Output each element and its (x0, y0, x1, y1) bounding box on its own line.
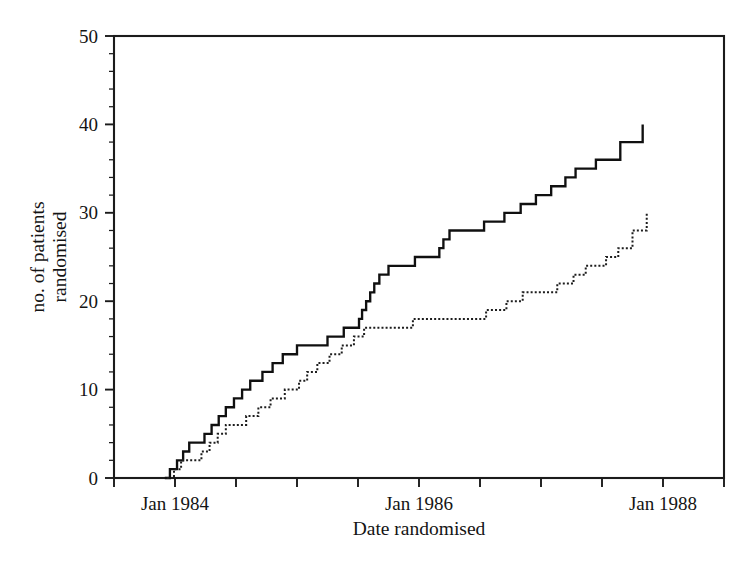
series-group (165, 124, 647, 478)
y-tick-label: 20 (79, 291, 98, 312)
x-axis-ticks (114, 478, 724, 487)
x-tick-label: Jan 1984 (141, 493, 210, 514)
recruitment-step-chart: 01020304050 Jan 1984Jan 1986Jan 1988 Dat… (0, 0, 753, 565)
series-dotted-line (167, 213, 647, 478)
y-tick-label: 0 (89, 468, 99, 489)
x-tick-label: Jan 1988 (629, 493, 697, 514)
y-axis-title-line1: no. of patients (27, 201, 48, 312)
y-tick-label: 30 (79, 202, 98, 223)
y-tick-label: 50 (79, 26, 98, 47)
y-tick-label: 10 (79, 379, 98, 400)
y-tick-label: 40 (79, 114, 98, 135)
y-axis-ticks (105, 36, 114, 478)
y-axis-title-line2: randomised (49, 211, 70, 302)
series-solid-line (165, 124, 643, 478)
chart-figure: 01020304050 Jan 1984Jan 1986Jan 1988 Dat… (0, 0, 753, 565)
x-axis-title-group: Date randomised (353, 518, 486, 539)
x-axis-title: Date randomised (353, 518, 486, 539)
y-axis-tick-labels: 01020304050 (79, 26, 98, 489)
x-axis-tick-labels: Jan 1984Jan 1986Jan 1988 (141, 493, 697, 514)
y-axis-title-group: no. of patients randomised (27, 201, 70, 312)
x-tick-label: Jan 1986 (385, 493, 453, 514)
